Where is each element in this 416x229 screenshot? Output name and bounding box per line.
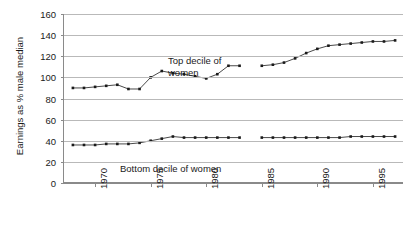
data-point [260,64,263,67]
data-point [305,52,308,55]
x-tick-label-1970: 1970 [98,168,109,189]
data-point [105,85,108,88]
data-point [138,142,141,145]
gridline-y-60 [64,120,403,121]
gridline-y-120 [64,56,403,57]
y-tick-label-100: 100 [40,72,56,83]
annotation-bottom-decile: Bottom decile of women [120,163,221,175]
data-point [294,57,297,60]
gridline-y-160 [64,14,403,15]
data-point [205,136,208,139]
data-point [227,64,230,67]
y-axis: Earnings as % male median 02040608010012… [0,0,63,229]
data-point [160,70,163,73]
data-point [238,64,241,67]
x-tick-mark-1990 [317,183,318,187]
annotation-top-line2: women [168,67,199,78]
data-point [172,135,175,138]
gridline-y-140 [64,35,403,36]
y-tick-label-40: 40 [45,135,56,146]
y-tick-mark-40 [61,141,64,142]
x-tick-label-1990: 1990 [320,168,331,189]
data-point [272,136,275,139]
data-point [94,86,97,89]
gridline-y-0 [64,183,403,184]
data-point [116,83,119,86]
y-tick-label-120: 120 [40,51,56,62]
data-point [394,39,397,42]
y-tick-mark-120 [61,56,64,57]
data-point [372,135,375,138]
gridline-y-20 [64,162,403,163]
data-point [360,135,363,138]
data-point [260,136,263,139]
y-tick-label-80: 80 [45,93,56,104]
data-point [316,48,319,51]
data-point [227,136,230,139]
x-tick-mark-1980 [206,183,207,187]
data-point [94,144,97,147]
y-tick-mark-140 [61,35,64,36]
data-point [238,136,241,139]
data-point [283,61,286,64]
data-point [83,144,86,147]
data-point [83,87,86,90]
data-point [283,136,286,139]
data-point [72,144,75,147]
x-tick-mark-1975 [151,183,152,187]
plot-area: Top decile ofwomen [63,14,403,183]
gridline-y-40 [64,141,403,142]
y-tick-mark-0 [61,183,64,184]
data-point [127,143,130,146]
y-tick-label-20: 20 [45,156,56,167]
data-point [383,135,386,138]
y-tick-label-140: 140 [40,30,56,41]
series-line [262,40,395,65]
x-tick-label-1985: 1985 [265,168,276,189]
y-tick-mark-60 [61,120,64,121]
x-tick-label-1975: 1975 [154,168,165,189]
data-point [105,143,108,146]
data-point [127,88,130,91]
x-tick-mark-1995 [373,183,374,187]
y-tick-label-60: 60 [45,114,56,125]
x-tick-mark-1985 [262,183,263,187]
x-tick-mark-1970 [95,183,96,187]
data-point [216,136,219,139]
data-point [383,40,386,43]
data-point [194,136,197,139]
data-point [338,136,341,139]
annotation-top-decile: Top decile ofwomen [168,55,221,79]
data-point [327,136,330,139]
x-tick-label-1995: 1995 [376,168,387,189]
y-tick-label-0: 0 [51,178,56,189]
y-tick-mark-80 [61,99,64,100]
data-point [160,137,163,140]
chart-container: Earnings as % male median 02040608010012… [0,0,416,229]
data-point [316,136,319,139]
gridline-y-100 [64,77,403,78]
y-axis-title: Earnings as % male median [14,6,28,186]
data-point [272,63,275,66]
data-point [394,135,397,138]
data-point [338,43,341,46]
data-point [305,136,308,139]
data-point [183,136,186,139]
y-tick-mark-20 [61,162,64,163]
data-point [360,41,363,44]
x-tick-label-1980: 1980 [209,168,220,189]
data-point [72,87,75,90]
data-point [116,143,119,146]
data-point [327,44,330,47]
data-point [349,135,352,138]
y-tick-mark-160 [61,14,64,15]
data-point [349,42,352,45]
series-0 [72,39,397,90]
gridline-y-80 [64,99,403,100]
data-point [372,40,375,43]
data-point [138,88,141,91]
y-tick-label-160: 160 [40,9,56,20]
data-point [294,136,297,139]
y-tick-mark-100 [61,77,64,78]
